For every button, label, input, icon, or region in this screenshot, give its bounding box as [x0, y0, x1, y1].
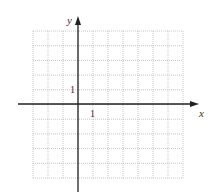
y-unit-label: 1 — [70, 84, 75, 95]
x-axis-arrow-icon — [190, 101, 199, 107]
y-axis-label: y — [66, 14, 72, 26]
coordinate-grid-svg: x y 1 1 — [0, 0, 216, 194]
x-unit-label: 1 — [90, 108, 95, 119]
y-axis-arrow-icon — [75, 16, 81, 25]
x-axis-label: x — [198, 107, 204, 119]
coordinate-plane: x y 1 1 — [0, 0, 216, 194]
axes — [18, 16, 199, 192]
